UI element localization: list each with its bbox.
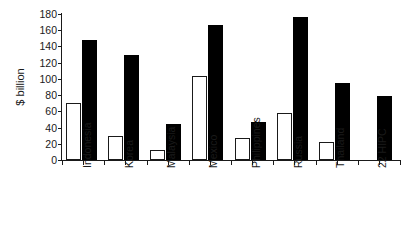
y-axis-tick-labels: 020406080100120140160180 <box>29 0 57 228</box>
bar-chart: $ billion 020406080100120140160180 Indon… <box>0 0 409 228</box>
y-axis-tick-label: 100 <box>33 74 57 84</box>
y-axis-tick-label: 20 <box>33 139 57 149</box>
x-axis-tick <box>189 160 190 165</box>
y-axis-tick-label: 160 <box>33 25 57 35</box>
x-axis-tick <box>316 160 317 165</box>
x-axis-label-22-hipc: 22 HIPC <box>377 78 388 168</box>
y-axis-tick <box>58 14 62 15</box>
y-axis-tick-label: 180 <box>33 9 57 19</box>
x-axis-label-mexico: Mexico <box>208 78 219 168</box>
plot-area <box>62 14 400 160</box>
y-axis-tick <box>58 95 62 96</box>
y-axis-tick <box>58 63 62 64</box>
y-axis-tick <box>58 144 62 145</box>
x-axis-label-russia: Russia <box>293 78 304 168</box>
x-axis-tick <box>231 160 232 165</box>
bar-open-mexico <box>192 76 207 160</box>
x-axis-tick <box>358 160 359 165</box>
y-axis-tick-label: 40 <box>33 123 57 133</box>
x-axis-label-thailand: Thailand <box>335 78 346 168</box>
x-axis-label-malaysia: Malaysia <box>166 78 177 168</box>
y-axis-tick-label: 120 <box>33 58 57 68</box>
x-axis-tick <box>273 160 274 165</box>
y-axis-tick <box>58 79 62 80</box>
y-axis-tick <box>58 30 62 31</box>
y-axis-tick-label: 80 <box>33 90 57 100</box>
bar-open-indonesia <box>66 103 81 160</box>
x-axis-label-korea: Korea <box>124 78 135 168</box>
bar-open-russia <box>277 113 292 160</box>
x-axis-tick <box>400 160 401 165</box>
bar-open-philippines <box>235 138 250 160</box>
x-axis-tick <box>147 160 148 165</box>
y-axis-tick-label: 60 <box>33 106 57 116</box>
y-axis-tick <box>58 46 62 47</box>
y-axis-tick <box>58 111 62 112</box>
x-axis-tick <box>104 160 105 165</box>
y-axis-tick-label: 0 <box>33 155 57 165</box>
y-axis-tick-label: 140 <box>33 41 57 51</box>
bar-open-korea <box>108 136 123 160</box>
y-axis-tick <box>58 128 62 129</box>
x-axis-label-indonesia: Indonesia <box>82 78 93 168</box>
x-axis-tick <box>62 160 63 165</box>
bar-open-thailand <box>319 142 334 160</box>
bar-open-malaysia <box>150 150 165 160</box>
y-axis-title: $ billion <box>14 52 30 122</box>
x-axis-label-philippines: Philippines <box>251 78 262 168</box>
